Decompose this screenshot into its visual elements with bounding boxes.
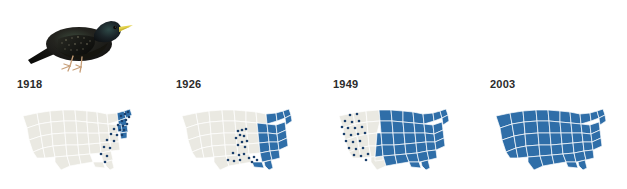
starling-range-figure: 1918	[0, 0, 627, 189]
panel-1949: 1949	[333, 78, 453, 178]
panel-year-label: 2003	[490, 78, 515, 90]
panel-2003: 2003	[490, 78, 610, 178]
us-range-map-1918	[17, 100, 137, 172]
us-range-map-1926	[176, 100, 296, 172]
panel-year-label: 1918	[17, 78, 42, 90]
panel-1926: 1926	[176, 78, 296, 178]
panel-1918: 1918	[17, 78, 137, 178]
us-range-map-2003	[490, 100, 610, 172]
panel-year-label: 1926	[176, 78, 201, 90]
european-starling-photo	[24, 6, 134, 74]
us-range-map-1949	[333, 100, 453, 172]
panel-year-label: 1949	[333, 78, 358, 90]
